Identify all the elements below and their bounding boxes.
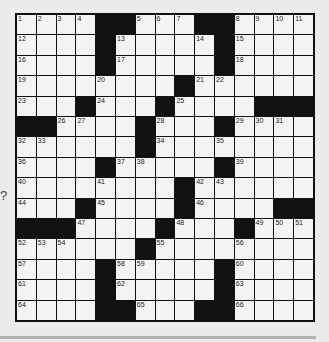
grid-cell[interactable]: 22 — [215, 76, 234, 95]
grid-cell[interactable] — [274, 137, 293, 156]
grid-cell[interactable]: 57 — [17, 260, 36, 279]
grid-cell[interactable] — [37, 97, 56, 116]
grid-cell[interactable] — [37, 178, 56, 197]
grid-cell[interactable]: 48 — [175, 219, 194, 238]
grid-cell[interactable] — [195, 239, 214, 258]
grid-cell[interactable] — [255, 137, 274, 156]
grid-cell[interactable]: 40 — [17, 178, 36, 197]
grid-cell[interactable] — [215, 199, 234, 218]
grid-cell[interactable]: 52 — [17, 239, 36, 258]
grid-cell[interactable] — [195, 260, 214, 279]
grid-cell[interactable]: 36 — [17, 158, 36, 177]
grid-cell[interactable]: 60 — [235, 260, 254, 279]
grid-cell[interactable] — [57, 56, 76, 75]
grid-cell[interactable] — [156, 56, 175, 75]
grid-cell[interactable]: 64 — [17, 301, 36, 320]
grid-cell[interactable]: 58 — [116, 260, 135, 279]
grid-cell[interactable] — [274, 260, 293, 279]
grid-cell[interactable] — [294, 137, 313, 156]
grid-cell[interactable] — [215, 97, 234, 116]
grid-cell[interactable] — [96, 239, 115, 258]
grid-cell[interactable] — [294, 301, 313, 320]
grid-cell[interactable] — [96, 117, 115, 136]
grid-cell[interactable]: 45 — [96, 199, 115, 218]
grid-cell[interactable] — [37, 199, 56, 218]
grid-cell[interactable] — [96, 219, 115, 238]
grid-cell[interactable]: 25 — [175, 97, 194, 116]
grid-cell[interactable]: 43 — [215, 178, 234, 197]
grid-cell[interactable] — [175, 301, 194, 320]
grid-cell[interactable]: 13 — [116, 35, 135, 54]
grid-cell[interactable]: 7 — [175, 15, 194, 34]
grid-cell[interactable] — [57, 35, 76, 54]
grid-cell[interactable] — [294, 35, 313, 54]
grid-cell[interactable] — [294, 56, 313, 75]
grid-cell[interactable] — [57, 178, 76, 197]
grid-cell[interactable]: 65 — [136, 301, 155, 320]
grid-cell[interactable] — [116, 97, 135, 116]
grid-cell[interactable]: 47 — [76, 219, 95, 238]
grid-cell[interactable] — [76, 178, 95, 197]
grid-cell[interactable] — [294, 76, 313, 95]
grid-cell[interactable] — [274, 35, 293, 54]
grid-cell[interactable]: 42 — [195, 178, 214, 197]
grid-cell[interactable] — [215, 239, 234, 258]
grid-cell[interactable] — [195, 219, 214, 238]
grid-cell[interactable]: 39 — [235, 158, 254, 177]
grid-cell[interactable] — [235, 76, 254, 95]
grid-cell[interactable]: 1 — [17, 15, 36, 34]
grid-cell[interactable] — [136, 35, 155, 54]
grid-cell[interactable] — [76, 280, 95, 299]
grid-cell[interactable]: 15 — [235, 35, 254, 54]
grid-cell[interactable] — [294, 239, 313, 258]
grid-cell[interactable]: 53 — [37, 239, 56, 258]
grid-cell[interactable] — [175, 56, 194, 75]
grid-cell[interactable] — [195, 137, 214, 156]
grid-cell[interactable]: 28 — [156, 117, 175, 136]
grid-cell[interactable] — [156, 178, 175, 197]
grid-cell[interactable] — [37, 76, 56, 95]
grid-cell[interactable] — [175, 117, 194, 136]
grid-cell[interactable] — [116, 76, 135, 95]
grid-cell[interactable] — [175, 260, 194, 279]
grid-cell[interactable] — [76, 239, 95, 258]
grid-cell[interactable] — [294, 280, 313, 299]
grid-cell[interactable]: 16 — [17, 56, 36, 75]
grid-cell[interactable] — [175, 280, 194, 299]
grid-cell[interactable] — [255, 158, 274, 177]
grid-cell[interactable] — [255, 35, 274, 54]
grid-cell[interactable] — [37, 280, 56, 299]
grid-cell[interactable] — [116, 219, 135, 238]
grid-cell[interactable] — [37, 158, 56, 177]
grid-cell[interactable]: 54 — [57, 239, 76, 258]
grid-cell[interactable] — [255, 301, 274, 320]
grid-cell[interactable]: 10 — [274, 15, 293, 34]
grid-cell[interactable] — [57, 158, 76, 177]
grid-cell[interactable] — [255, 76, 274, 95]
grid-cell[interactable] — [57, 260, 76, 279]
grid-cell[interactable]: 18 — [235, 56, 254, 75]
grid-cell[interactable] — [255, 239, 274, 258]
grid-cell[interactable] — [57, 97, 76, 116]
grid-cell[interactable]: 61 — [17, 280, 36, 299]
grid-cell[interactable] — [195, 97, 214, 116]
grid-cell[interactable]: 44 — [17, 199, 36, 218]
grid-cell[interactable] — [235, 97, 254, 116]
grid-cell[interactable] — [255, 199, 274, 218]
grid-cell[interactable]: 33 — [37, 137, 56, 156]
grid-cell[interactable] — [235, 199, 254, 218]
grid-cell[interactable]: 62 — [116, 280, 135, 299]
grid-cell[interactable] — [37, 35, 56, 54]
grid-cell[interactable]: 59 — [136, 260, 155, 279]
grid-cell[interactable] — [274, 239, 293, 258]
grid-cell[interactable]: 23 — [17, 97, 36, 116]
grid-cell[interactable]: 4 — [76, 15, 95, 34]
grid-cell[interactable] — [116, 117, 135, 136]
grid-cell[interactable] — [294, 158, 313, 177]
grid-cell[interactable]: 31 — [274, 117, 293, 136]
grid-cell[interactable]: 41 — [96, 178, 115, 197]
grid-cell[interactable]: 3 — [57, 15, 76, 34]
grid-cell[interactable] — [156, 158, 175, 177]
grid-cell[interactable] — [255, 178, 274, 197]
grid-cell[interactable] — [57, 301, 76, 320]
